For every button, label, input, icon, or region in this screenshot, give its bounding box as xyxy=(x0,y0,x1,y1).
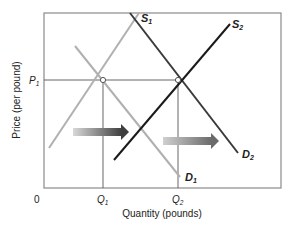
equilibrium-point-1 xyxy=(100,77,105,82)
tick-label-q2: Q2 xyxy=(172,194,184,206)
equilibrium-point-2 xyxy=(175,77,180,82)
x-axis-title: Quantity (pounds) xyxy=(122,208,202,219)
label-s1: S1 xyxy=(141,12,152,25)
label-d2: D2 xyxy=(242,148,254,161)
demand-curve-d1 xyxy=(75,46,180,177)
y-axis-title: Price (per pound) xyxy=(11,61,22,138)
origin-label: 0 xyxy=(34,194,40,205)
supply-curve-s1 xyxy=(49,13,139,148)
tick-label-q1: Q1 xyxy=(97,194,109,206)
supply-demand-diagram: S1 S2 D2 D1 P1 0 Q1 Q2 Quantity (pounds)… xyxy=(0,0,298,233)
label-s2: S2 xyxy=(232,18,243,31)
shift-arrow-supply xyxy=(163,133,219,149)
shift-arrow-demand xyxy=(73,124,129,140)
label-d1: D1 xyxy=(185,171,197,184)
tick-label-p1: P1 xyxy=(29,75,40,87)
